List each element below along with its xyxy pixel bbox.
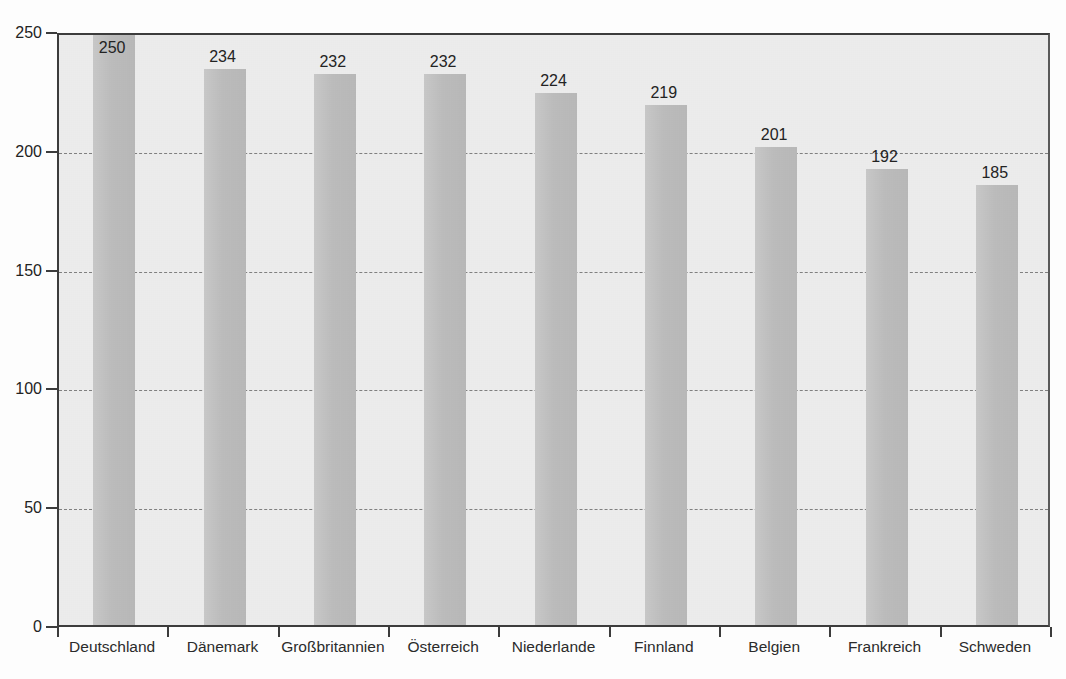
x-axis-tick: [167, 627, 169, 637]
y-axis-tick: [46, 507, 57, 509]
y-axis-tick-label: 250: [0, 25, 42, 41]
x-axis-tick: [829, 627, 831, 637]
bar: [424, 74, 466, 625]
x-axis-tick: [57, 627, 59, 637]
x-axis-tick: [719, 627, 721, 637]
bar-value-label: 224: [519, 72, 589, 90]
bar-value-label: 219: [629, 84, 699, 102]
bar-value-label: 232: [408, 53, 478, 71]
y-axis-tick: [46, 626, 57, 628]
plot-area: [57, 33, 1050, 627]
y-axis-tick: [46, 32, 57, 34]
y-axis-tick: [46, 151, 57, 153]
y-axis-tick-label: 150: [0, 263, 42, 279]
bar-value-label: 192: [850, 148, 920, 166]
bar: [314, 74, 356, 625]
y-axis-tick-label: 100: [0, 381, 42, 397]
bar: [93, 33, 135, 625]
bar-value-label: 250: [77, 39, 147, 57]
y-axis-tick-label: 50: [0, 500, 42, 516]
bar: [645, 105, 687, 625]
x-axis-tick: [388, 627, 390, 637]
x-axis-tick: [498, 627, 500, 637]
x-axis-tick: [1050, 627, 1052, 637]
bar: [866, 169, 908, 625]
y-axis-tick-label: 200: [0, 144, 42, 160]
x-axis-tick: [609, 627, 611, 637]
x-axis-tick: [278, 627, 280, 637]
x-axis-category-label: Schweden: [920, 638, 1066, 656]
y-axis-tick-label: 0: [0, 619, 42, 635]
bar: [976, 185, 1018, 625]
bar-value-label: 232: [298, 53, 368, 71]
bar: [204, 69, 246, 625]
x-axis-tick: [940, 627, 942, 637]
bar-value-label: 234: [188, 48, 258, 66]
bar-chart: 250234232232224219201192185 050100150200…: [0, 0, 1066, 679]
bar-value-label: 201: [739, 126, 809, 144]
y-axis-tick: [46, 388, 57, 390]
bar: [535, 93, 577, 625]
bar: [755, 147, 797, 625]
y-axis-tick: [46, 270, 57, 272]
bar-value-label: 185: [960, 164, 1030, 182]
